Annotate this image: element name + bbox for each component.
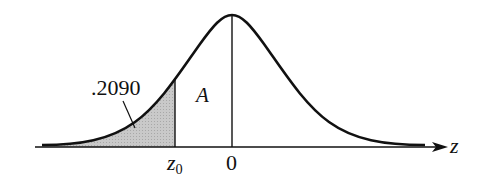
zero-tick-label: 0 [226,150,237,176]
z0-tick-label: z0 [167,150,183,178]
area-a-label: A [196,83,209,108]
normal-curve-diagram: .2090 A z0 0 z [0,0,484,185]
shaded-area-label: .2090 [91,75,141,101]
axis-label-z: z [450,133,459,159]
curve-graphic [0,0,484,185]
leader-line [123,101,135,128]
